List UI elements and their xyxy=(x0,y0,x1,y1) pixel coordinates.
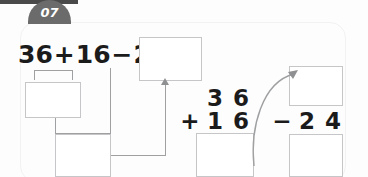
addend-bottom-tens: 1 xyxy=(202,108,228,134)
vertical-addition-bottom-row: +16 xyxy=(178,108,254,134)
operand-a: 36 xyxy=(18,40,53,69)
minus-operator: − xyxy=(111,40,134,69)
curved-transfer-arrow-icon xyxy=(248,58,308,168)
operand-b: 16 xyxy=(76,40,111,69)
plus-operator: + xyxy=(53,40,76,69)
answer-box-vertical-sum[interactable] xyxy=(196,133,254,177)
connector-from-24-horizontal xyxy=(55,133,111,134)
vertical-plus-operator: + xyxy=(178,108,202,134)
answer-box-partial-sum[interactable] xyxy=(25,82,81,118)
worksheet-page: 07 36+16−24= 36 +16 −24 xyxy=(0,0,368,177)
connector-partial-sum-down xyxy=(55,118,56,134)
subtrahend-ones: 4 xyxy=(320,108,346,134)
result-arrowhead-icon xyxy=(161,78,169,85)
connector-from-24-vertical xyxy=(110,68,111,134)
bracket-left-tick xyxy=(34,70,35,80)
answer-box-result[interactable] xyxy=(139,37,202,81)
result-arrow-vertical xyxy=(165,84,166,156)
bracket-right-tick xyxy=(72,70,73,80)
result-arrow-horizontal xyxy=(111,155,166,156)
bracket-top-rule xyxy=(34,70,73,71)
answer-box-partial-difference[interactable] xyxy=(55,134,111,177)
